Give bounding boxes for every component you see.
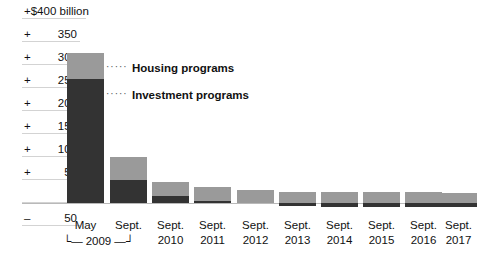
- x-axis-year-bracket: └—2009—┘: [63, 235, 134, 247]
- bar-segment-investment: [321, 203, 358, 207]
- x-axis-tick-label: Sept.2017: [431, 219, 479, 246]
- legend-leader-dots: ·····: [106, 61, 132, 72]
- bar-segment-investment: [194, 201, 231, 203]
- bar-segment-housing: [67, 53, 104, 79]
- legend-item: ·····Investment programs: [106, 88, 249, 104]
- legend-label: Investment programs: [132, 89, 249, 101]
- bar-segment-investment: [405, 203, 442, 207]
- chart-container: +$400 billion+350+300+250+200+150+100+50…: [0, 0, 479, 279]
- bar-segment-housing: [237, 190, 274, 203]
- bar-segment-housing: [194, 187, 231, 201]
- bar-segment-investment: [363, 203, 400, 207]
- legend-leader-dots: ·····: [106, 88, 132, 99]
- x-axis-label-month: Sept.: [431, 219, 479, 231]
- legend-label: Housing programs: [132, 62, 234, 74]
- bar-segment-housing: [279, 192, 316, 204]
- bar-segment-housing: [152, 182, 189, 196]
- bracket-year-label: 2009: [83, 235, 115, 247]
- bracket-left-cap: └—: [63, 235, 83, 247]
- bar-segment-housing: [405, 192, 442, 204]
- bar-segment-investment: [110, 180, 147, 203]
- bar-segment-housing: [110, 157, 147, 180]
- bar-segment-investment: [440, 203, 477, 207]
- legend-item: ·····Housing programs: [106, 61, 234, 77]
- bar-segment-housing: [363, 192, 400, 203]
- x-axis-label-year: 2017: [431, 234, 479, 246]
- bracket-right-cap: —┘: [114, 235, 134, 247]
- bar-segment-housing: [321, 192, 358, 203]
- bar-segment-housing: [440, 193, 477, 203]
- bar-segment-investment: [279, 203, 316, 206]
- bar-segment-investment: [152, 196, 189, 203]
- bar-segment-investment: [67, 79, 104, 203]
